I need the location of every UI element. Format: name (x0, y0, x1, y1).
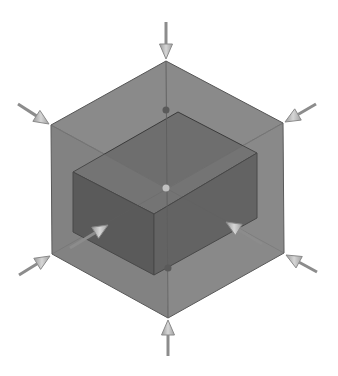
arrow-head (160, 44, 173, 59)
arrow-head (285, 109, 301, 122)
arrow-shaft (298, 104, 316, 114)
arrow-head (286, 255, 302, 268)
isometric-box-diagram (0, 0, 338, 376)
arrow-head (34, 256, 50, 269)
arrow-lower-right-icon (286, 255, 317, 272)
axis-marker (163, 185, 170, 192)
arrow-top-icon (160, 22, 173, 59)
arrow-upper-left-icon (18, 104, 49, 124)
arrow-lower-left-icon (19, 256, 50, 275)
axis-marker (163, 107, 170, 114)
arrow-head (162, 320, 175, 335)
arrow-shaft (18, 104, 36, 116)
arrow-upper-right-icon (285, 104, 316, 122)
arrow-bottom-icon (162, 320, 175, 356)
diagram-stage: Isometric bounding box with inner block … (0, 0, 338, 376)
arrow-head (33, 110, 49, 124)
arrow-shaft (19, 264, 37, 275)
axis-marker (165, 265, 172, 272)
arrow-shaft (299, 262, 317, 272)
